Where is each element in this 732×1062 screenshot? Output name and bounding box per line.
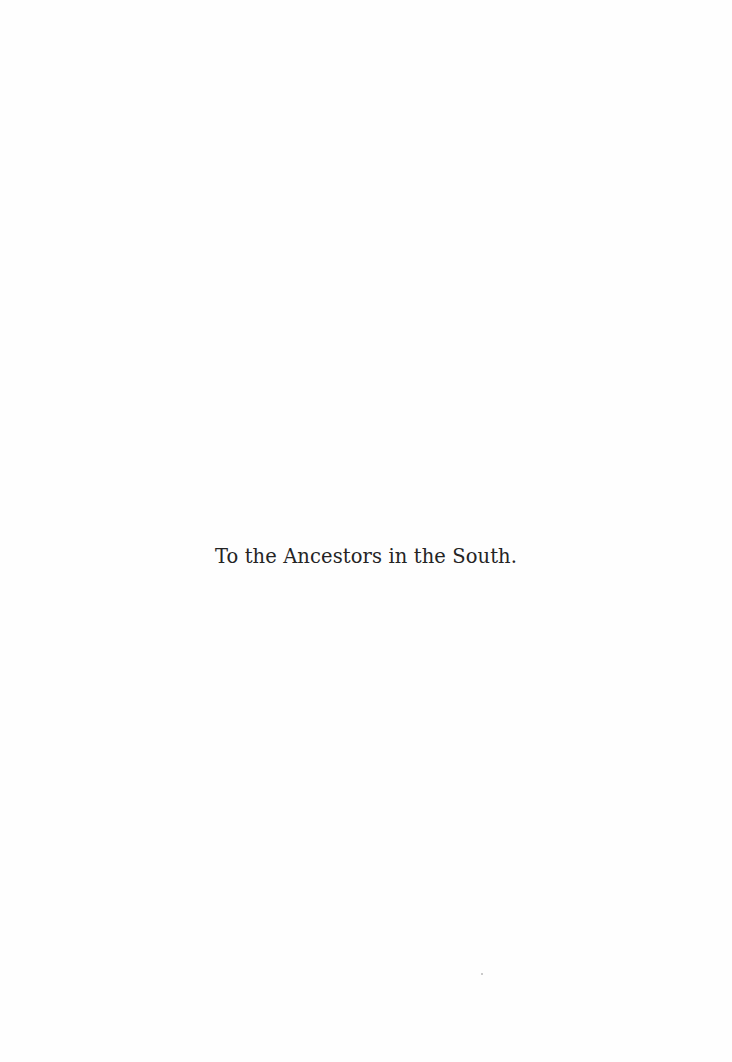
scan-speck — [481, 973, 483, 975]
dedication-text: To the Ancestors in the South. — [0, 542, 732, 572]
document-page: To the Ancestors in the South. — [0, 0, 732, 1062]
